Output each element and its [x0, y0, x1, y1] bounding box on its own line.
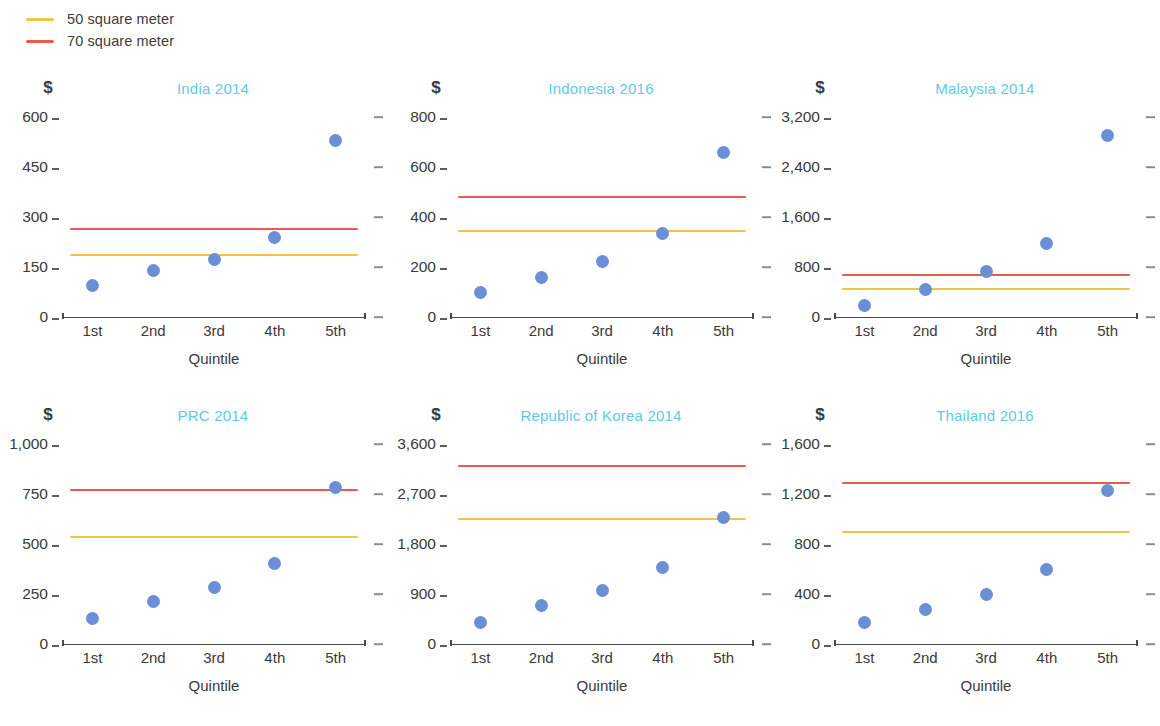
data-point[interactable] — [86, 279, 99, 292]
data-point[interactable] — [1040, 237, 1053, 250]
x-axis-tick-labels: 1st2nd3rd4th5th — [450, 649, 754, 671]
y-axis-tick-value: 1,600 — [781, 435, 820, 452]
data-point[interactable] — [147, 264, 160, 277]
y-axis-tick-mark — [52, 168, 59, 170]
data-point[interactable] — [474, 286, 487, 299]
y-axis-tick-label: 200 — [410, 258, 450, 276]
chart-title: India 2014 — [60, 80, 366, 97]
reference-line-50-square-meter — [842, 288, 1130, 290]
data-point[interactable] — [268, 231, 281, 244]
data-point[interactable] — [656, 227, 669, 240]
y-axis-tick-mark — [824, 218, 831, 220]
y-axis-tick-mark — [440, 545, 447, 547]
y-axis-tick-value: 400 — [794, 585, 820, 602]
y-axis-tick-label: 600 — [410, 158, 450, 176]
x-axis-tick-label: 1st — [82, 322, 102, 339]
x-axis-tick-label: 5th — [1097, 322, 1118, 339]
x-axis-tick-label: 1st — [82, 649, 102, 666]
data-point[interactable] — [329, 481, 342, 494]
y-axis-right-tick-mark — [1146, 216, 1155, 218]
y-axis-tick-value: 0 — [427, 308, 436, 325]
legend-line-swatch-icon — [26, 18, 54, 21]
x-axis-tick-label: 3rd — [591, 649, 613, 666]
data-point[interactable] — [980, 588, 993, 601]
y-axis-right-tick-mark — [762, 266, 771, 268]
y-axis-tick-mark — [52, 218, 59, 220]
y-axis-tick-mark — [440, 645, 447, 647]
y-axis-right-tick-mark — [1146, 543, 1155, 545]
data-point[interactable] — [474, 616, 487, 629]
y-axis-tick-label: 800 — [794, 258, 834, 276]
y-axis-tick-value: 2,700 — [397, 485, 436, 502]
y-axis-tick-value: 1,600 — [781, 208, 820, 225]
y-axis-tick-value: 1,000 — [9, 435, 48, 452]
x-axis-tick-label: 4th — [264, 322, 285, 339]
x-axis-title: Quintile — [450, 350, 754, 367]
y-axis-right-tick-mark — [762, 493, 771, 495]
y-axis-right-tick-mark — [374, 166, 383, 168]
x-axis-tick-label: 2nd — [529, 322, 554, 339]
data-point[interactable] — [656, 561, 669, 574]
y-axis-tick-label: 400 — [794, 585, 834, 603]
y-axis-right-tick-mark — [762, 643, 771, 645]
y-axis-tick-label: 300 — [22, 208, 62, 226]
y-axis-tick-value: 600 — [410, 158, 436, 175]
y-axis-right-tick-mark — [374, 116, 383, 118]
chart-panel: $Thailand 201604008001,2001,6001st2nd3rd… — [772, 399, 1158, 726]
y-axis-tick-label: 2,400 — [781, 158, 834, 176]
data-point[interactable] — [858, 299, 871, 312]
y-axis-right-tick-mark — [1146, 443, 1155, 445]
data-point[interactable] — [147, 595, 160, 608]
plot-area: 04008001,2001,600 — [834, 444, 1138, 644]
data-point[interactable] — [268, 557, 281, 570]
y-axis-tick-mark — [824, 595, 831, 597]
y-axis-tick-mark — [440, 595, 447, 597]
y-axis-tick-value: 750 — [22, 485, 48, 502]
y-axis-tick-mark — [52, 595, 59, 597]
data-point[interactable] — [596, 584, 609, 597]
y-axis-tick-mark — [52, 495, 59, 497]
data-point[interactable] — [717, 146, 730, 159]
x-axis-line — [62, 317, 366, 318]
data-point[interactable] — [980, 265, 993, 278]
y-axis-tick-label: 3,600 — [397, 435, 450, 453]
y-axis-tick-label: 1,200 — [781, 485, 834, 503]
data-point[interactable] — [1040, 563, 1053, 576]
data-point[interactable] — [1101, 484, 1114, 497]
x-axis-tick-labels: 1st2nd3rd4th5th — [450, 322, 754, 344]
y-axis-tick-label: 1,800 — [397, 535, 450, 553]
x-axis-tick-label: 3rd — [591, 322, 613, 339]
y-axis-right-tick-mark — [1146, 493, 1155, 495]
reference-line-50-square-meter — [458, 230, 746, 232]
y-axis-right-tick-mark — [1146, 643, 1155, 645]
x-axis-tick-label: 1st — [470, 322, 490, 339]
y-axis-tick-value: 800 — [794, 258, 820, 275]
data-point[interactable] — [329, 134, 342, 147]
x-axis-title: Quintile — [62, 677, 366, 694]
data-point[interactable] — [208, 581, 221, 594]
x-axis-tick-label: 2nd — [141, 322, 166, 339]
data-point[interactable] — [535, 271, 548, 284]
legend-item-50sqm[interactable]: 50 square meter — [26, 8, 426, 30]
y-axis-tick-label: 900 — [410, 585, 450, 603]
data-point[interactable] — [535, 599, 548, 612]
y-axis-tick-value: 200 — [410, 258, 436, 275]
data-point[interactable] — [919, 283, 932, 296]
data-point[interactable] — [919, 603, 932, 616]
data-point[interactable] — [208, 253, 221, 266]
data-point[interactable] — [858, 616, 871, 629]
plot-area: 08001,6002,4003,200 — [834, 117, 1138, 317]
data-point[interactable] — [596, 255, 609, 268]
y-axis-right-tick-mark — [1146, 166, 1155, 168]
data-point[interactable] — [1101, 129, 1114, 142]
data-point[interactable] — [86, 612, 99, 625]
x-axis-tick-label: 4th — [1036, 649, 1057, 666]
chart-title: PRC 2014 — [60, 407, 366, 424]
reference-line-50-square-meter — [842, 531, 1130, 533]
y-axis-tick-label: 800 — [794, 535, 834, 553]
y-axis-tick-label: 1,600 — [781, 208, 834, 226]
data-point[interactable] — [717, 511, 730, 524]
y-axis-tick-label: 150 — [22, 258, 62, 276]
y-axis-tick-label: 600 — [22, 108, 62, 126]
legend-item-70sqm[interactable]: 70 square meter — [26, 30, 426, 52]
